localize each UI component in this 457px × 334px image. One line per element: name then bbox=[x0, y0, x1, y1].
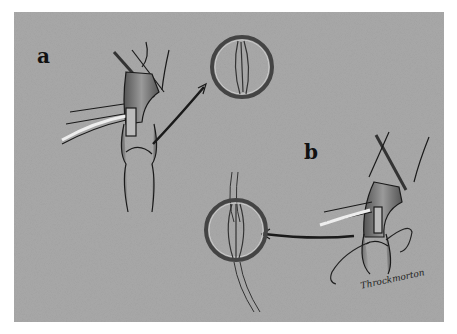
illustration-panel: a b Throckmorton bbox=[14, 12, 444, 322]
panel-label-b: b bbox=[304, 140, 318, 164]
panel-label-a: a bbox=[37, 44, 50, 68]
